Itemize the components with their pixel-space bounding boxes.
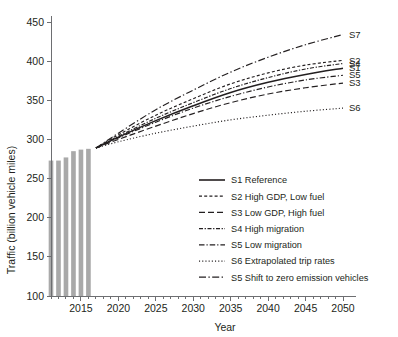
y-tick-label: 350 [26,94,44,106]
y-tick-label: 200 [26,211,44,223]
historic-bar [56,161,61,296]
x-tick-label: 2025 [144,302,168,314]
y-tick-label: 100 [26,290,44,302]
y-tick-label: 450 [26,16,44,28]
x-axis-title: Year [214,321,236,333]
legend-label: S3 Low GDP, High fuel [231,208,324,218]
legend-label: S1 Reference [231,175,287,185]
legend-label: S5 Low migration [231,240,302,250]
x-tick-label: 2020 [107,302,131,314]
legend-label: S6 Extrapolated trip rates [231,256,335,266]
x-tick-label: 2030 [182,302,206,314]
y-tick-label: 250 [26,172,44,184]
historic-bar [64,157,69,296]
x-tick-label: 2045 [294,302,318,314]
historic-bar [79,150,84,296]
legend-label: S2 High GDP, Low fuel [231,192,324,202]
legend-label: S4 High migration [231,224,304,234]
x-tick-label: 2035 [219,302,243,314]
historic-bar [71,151,76,296]
y-tick-label: 400 [26,55,44,67]
y-axis-title: Traffic (billion vehicle miles) [5,146,17,274]
series-tag-s7: S7 [349,29,361,40]
series-tag-s3: S3 [349,77,361,88]
traffic-line-chart: 100150200250300350400450 201520202025203… [0,0,398,337]
y-tick-label: 150 [26,250,44,262]
historic-bar [86,149,91,296]
x-tick-label: 2040 [256,302,280,314]
x-tick-label: 2050 [331,302,355,314]
x-tick-label: 2015 [69,302,93,314]
legend-label: S5 Shift to zero emission vehicles [231,273,369,283]
traffic-forecast-figure: 100150200250300350400450 201520202025203… [0,0,398,337]
y-tick-label: 300 [26,133,44,145]
series-tag-s6: S6 [349,102,361,113]
